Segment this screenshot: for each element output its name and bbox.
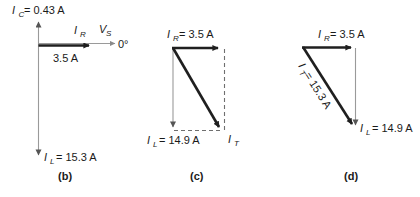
panel-b-vs-label: V S — [99, 23, 112, 38]
panel-b-caption: (b) — [58, 170, 72, 182]
panel-b-ic-label: I C = 0.43 A — [12, 4, 65, 19]
panel-d-il-label: I L = 14.9 A — [360, 122, 413, 137]
svg-text:I: I — [12, 4, 15, 16]
phasor-diagram-canvas: I C = 0.43 A I R V S 0° 3.5 A I L — [0, 0, 420, 197]
panel-c-ir-label: I R = 3.5 A — [167, 28, 214, 43]
svg-text:L: L — [153, 140, 157, 149]
svg-text:I: I — [318, 28, 321, 40]
svg-text:S: S — [106, 29, 112, 38]
svg-text:L: L — [50, 157, 54, 166]
panel-c-it-label: I T — [228, 133, 240, 148]
panel-b-il-label: I L = 15.3 A — [44, 151, 97, 166]
svg-text:I: I — [296, 61, 308, 70]
panel-b-ir-value-label: 3.5 A — [53, 52, 79, 64]
phasor-diagram-figure: I C = 0.43 A I R V S 0° 3.5 A I L — [0, 0, 420, 197]
svg-text:I: I — [74, 24, 77, 36]
svg-text:I: I — [360, 122, 363, 134]
svg-text:= 3.5 A: = 3.5 A — [179, 28, 214, 40]
panel-d-caption: (d) — [344, 170, 358, 182]
svg-text:T: T — [234, 139, 240, 148]
svg-text:R: R — [80, 30, 86, 39]
panel-b: I C = 0.43 A I R V S 0° 3.5 A I L — [12, 4, 129, 182]
svg-text:I: I — [228, 133, 231, 145]
panel-d-ir-label: I R = 3.5 A — [318, 28, 365, 43]
svg-text:= 15.3 A: = 15.3 A — [56, 151, 97, 163]
svg-text:= 3.5 A: = 3.5 A — [330, 28, 365, 40]
panel-d: I R = 3.5 A I T = 15.3 A I L = 14.9 A (d… — [294, 28, 414, 182]
panel-c-it-vector — [173, 48, 219, 127]
panel-c: I R = 3.5 A I L = 14.9 A I T (c) — [147, 28, 240, 182]
svg-text:L: L — [366, 128, 370, 137]
panel-c-caption: (c) — [190, 170, 204, 182]
svg-text:I: I — [44, 151, 47, 163]
svg-text:= 0.43 A: = 0.43 A — [24, 4, 65, 16]
panel-b-ir-label: I R — [74, 24, 86, 39]
svg-text:= 14.9 A: = 14.9 A — [372, 122, 413, 134]
svg-text:I: I — [147, 134, 150, 146]
panel-c-il-label: I L = 14.9 A — [147, 134, 200, 149]
svg-text:I: I — [167, 28, 170, 40]
svg-text:= 14.9 A: = 14.9 A — [159, 134, 200, 146]
panel-b-angle-label: 0° — [118, 38, 129, 50]
